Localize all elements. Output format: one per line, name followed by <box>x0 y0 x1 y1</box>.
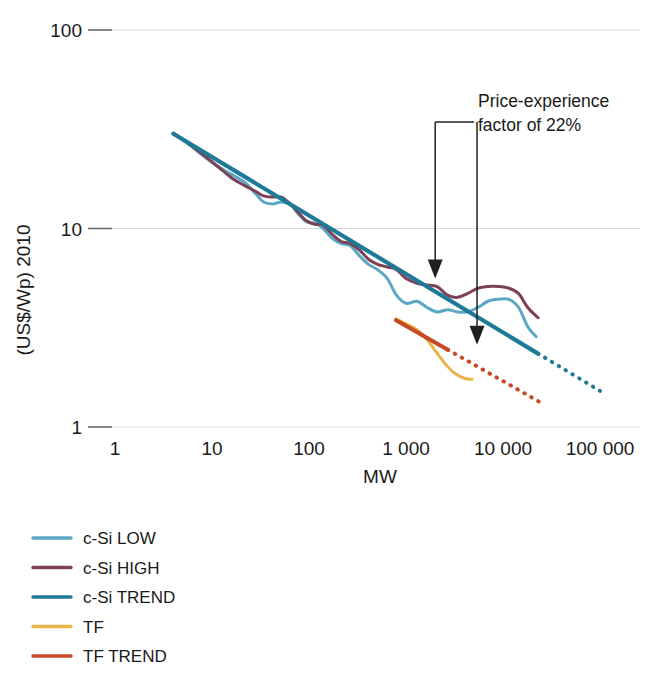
x-tick-label-1: 1 <box>110 438 121 459</box>
x-tick-label-100: 100 <box>293 438 325 459</box>
x-axis-title: MW <box>363 466 397 487</box>
x-tick-label-10000: 10 000 <box>474 438 532 459</box>
y-axis-title: (US$/Wp) 2010 <box>13 225 34 356</box>
y-tick-label-10: 10 <box>61 219 82 240</box>
annotation-line-2: factor of 22% <box>478 115 581 135</box>
x-tick-label-100000: 100 000 <box>566 438 635 459</box>
legend-label-c-si-low: c-Si LOW <box>83 529 156 548</box>
x-tick-label-1000: 1 000 <box>382 438 430 459</box>
legend-label-c-si-trend: c-Si TREND <box>83 588 175 607</box>
legend-label-tf: TF <box>83 618 104 637</box>
y-tick-label-100: 100 <box>50 20 82 41</box>
legend-label-tf-trend: TF TREND <box>83 647 167 666</box>
price-experience-curve-chart: 100101 1101001 00010 000100 000 (US$/Wp)… <box>0 0 653 688</box>
y-tick-label-1: 1 <box>71 417 82 438</box>
annotation-line-1: Price-experience <box>478 91 609 111</box>
chart-canvas: 100101 1101001 00010 000100 000 (US$/Wp)… <box>0 0 653 688</box>
legend-label-c-si-high: c-Si HIGH <box>83 559 160 578</box>
x-tick-label-10: 10 <box>201 438 222 459</box>
